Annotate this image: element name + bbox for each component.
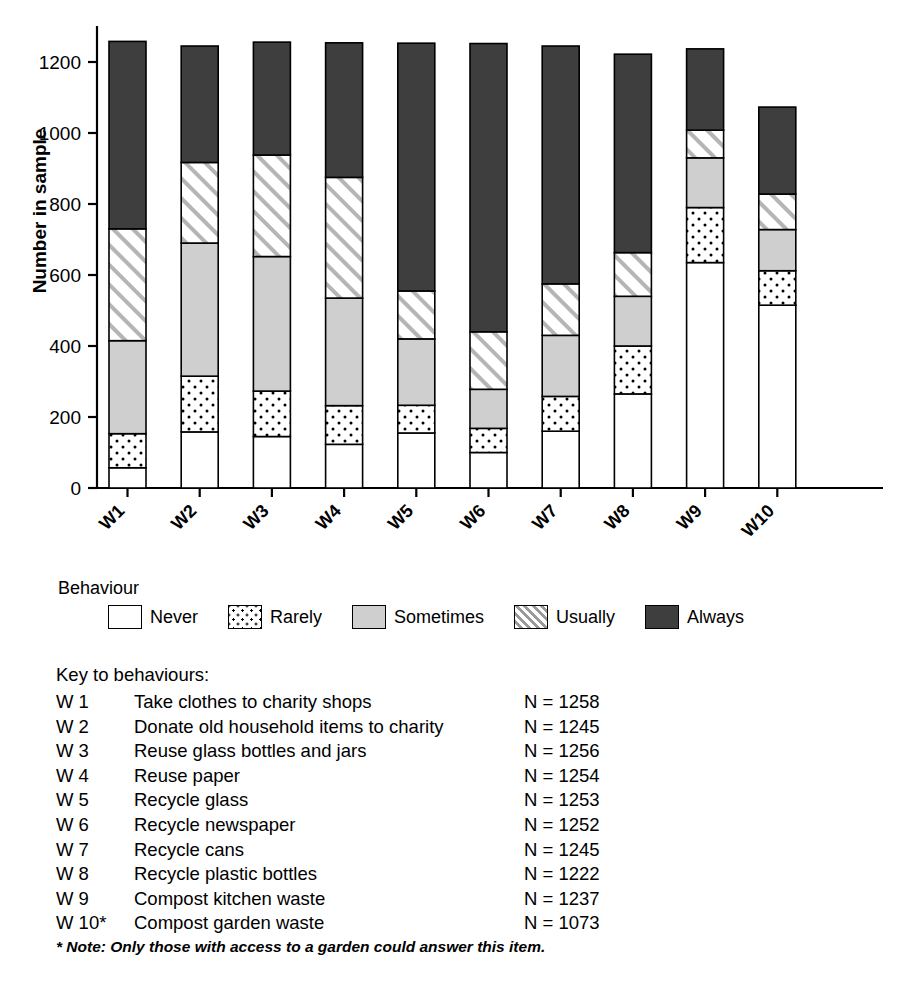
hatched-square-icon [514,605,548,629]
key-row-sample-size: N = 1254 [524,764,600,789]
legend-item-label: Sometimes [394,607,484,628]
bar-segment [253,391,290,436]
bar-segment [181,376,218,432]
x-tick-label-w2: W2 [167,501,200,534]
key-row-code: W 8 [56,862,134,887]
bar-segment [109,229,146,341]
bar-segment [759,230,796,271]
key-row: W 9Compost kitchen wasteN = 1237 [56,887,886,912]
bar-segment [109,434,146,468]
key-row-code: W 5 [56,788,134,813]
y-tick-label: 1000 [39,123,81,144]
key-row-sample-size: N = 1253 [524,788,600,813]
bar-segment [759,107,796,194]
y-tick-label: 800 [49,194,81,215]
key-title: Key to behaviours: [56,664,886,686]
key-row-code: W 9 [56,887,134,912]
key-row-description: Recycle newspaper [134,813,524,838]
legend-item-sometimes[interactable]: Sometimes [352,605,484,629]
key-row-code: W 6 [56,813,134,838]
key-row-sample-size: N = 1245 [524,715,600,740]
bar-segment [542,396,579,431]
x-tick-label-w1: W1 [95,501,128,534]
legend-item-usually[interactable]: Usually [514,605,615,629]
bar-segment [398,291,435,339]
bar-segment [326,177,363,298]
x-tick-label-w6: W6 [456,501,489,534]
key-row-code: W 7 [56,838,134,863]
bar-segment [614,394,651,488]
bar-segment [109,41,146,228]
key-row: W 5Recycle glassN = 1253 [56,788,886,813]
y-tick-label: 400 [49,336,81,357]
key-row: W 7Recycle cansN = 1245 [56,838,886,863]
y-tick-label: 200 [49,407,81,428]
bar-segment [687,49,724,130]
legend-item-label: Always [687,607,744,628]
dark-square-icon [645,605,679,629]
y-tick-label: 1200 [39,52,81,73]
key-row-sample-size: N = 1245 [524,838,600,863]
key-row-description: Compost kitchen waste [134,887,524,912]
bar-segment [542,46,579,284]
white-square-icon [108,605,142,629]
bar-segment [181,46,218,162]
key-row: W 4Reuse paperN = 1254 [56,764,886,789]
bar-segment [687,263,724,488]
bar-segment [326,43,363,178]
x-tick-label-w7: W7 [528,501,561,534]
bar-segment [687,208,724,263]
bar-segment [614,253,651,297]
x-tick-label-w9: W9 [673,501,706,534]
chart-legend: Behaviour NeverRarelySometimesUsuallyAlw… [56,578,876,629]
bar-segment [326,298,363,406]
bar-segment [759,194,796,230]
key-row-description: Take clothes to charity shops [134,690,524,715]
x-tick-label-w5: W5 [384,501,417,534]
key-row-sample-size: N = 1258 [524,690,600,715]
legend-item-rarely[interactable]: Rarely [228,605,322,629]
key-row-description: Recycle glass [134,788,524,813]
legend-title: Behaviour [56,578,876,599]
x-tick-label-w10: W10 [738,501,778,541]
x-tick-label-w8: W8 [600,501,633,534]
bar-segment [614,296,651,346]
bars-group [109,41,796,488]
key-row: W 8Recycle plastic bottlesN = 1222 [56,862,886,887]
bar-segment [181,162,218,243]
key-row: W 1Take clothes to charity shopsN = 1258 [56,690,886,715]
x-tick-labels: W1W2W3W4W5W6W7W8W9W10 [95,501,778,541]
bar-segment [542,431,579,488]
bar-segment [470,428,507,452]
legend-item-label: Rarely [270,607,322,628]
key-row-description: Reuse glass bottles and jars [134,739,524,764]
key-row-code: W 1 [56,690,134,715]
key-row: W 10*Compost garden wasteN = 1073 [56,911,886,936]
bar-segment [687,130,724,158]
key-row: W 2Donate old household items to charity… [56,715,886,740]
legend-item-always[interactable]: Always [645,605,744,629]
y-tick-labels: 020040060080010001200 [39,52,81,499]
key-row-code: W 2 [56,715,134,740]
bar-segment [759,305,796,488]
key-row-description: Reuse paper [134,764,524,789]
plot-canvas: W1W2W3W4W5W6W7W8W9W10 020040060080010001… [0,0,907,575]
legend-item-never[interactable]: Never [108,605,198,629]
key-row: W 3Reuse glass bottles and jarsN = 1256 [56,739,886,764]
key-footnote: * Note: Only those with access to a gard… [56,938,886,956]
bar-segment [398,433,435,488]
bar-segment [253,42,290,155]
key-row-code: W 3 [56,739,134,764]
bar-segment [181,432,218,488]
bar-segment [687,158,724,208]
bar-segment [470,44,507,332]
stacked-bar-chart: Number in sample W1W2W3W4W5W6W7W8W9W10 0… [0,0,907,575]
y-tick-label: 0 [70,478,81,499]
key-row-description: Compost garden waste [134,911,524,936]
bar-segment [614,54,651,252]
key-row-description: Recycle plastic bottles [134,862,524,887]
bar-segment [181,243,218,376]
legend-item-label: Never [150,607,198,628]
bar-segment [470,389,507,428]
key-row-description: Recycle cans [134,838,524,863]
